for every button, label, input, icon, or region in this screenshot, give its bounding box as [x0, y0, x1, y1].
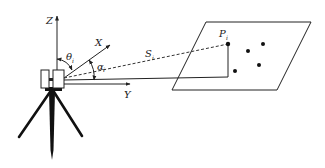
scan-surface-plane	[172, 22, 311, 90]
range-subscript: i	[152, 54, 154, 61]
theta-subscript: i	[72, 57, 74, 64]
scanner-geometry-diagram: Z X Y θ i α i S i P i	[0, 0, 325, 168]
point-label: P	[218, 28, 226, 39]
scanner-instrument	[41, 70, 64, 91]
range-label: S	[145, 48, 152, 59]
tripod	[19, 91, 82, 160]
y-axis-label: Y	[124, 89, 132, 100]
point-pi	[226, 42, 230, 46]
z-axis-label: Z	[45, 15, 54, 26]
x-axis-label: X	[94, 37, 103, 48]
point-subscript: i	[226, 34, 228, 41]
alpha-angle-arc	[89, 60, 94, 80]
scan-points	[233, 42, 265, 73]
alpha-subscript: i	[103, 66, 105, 73]
